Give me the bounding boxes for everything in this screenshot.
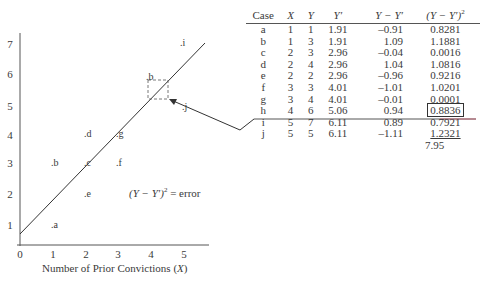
- cell-yp: 6.11: [321, 128, 355, 140]
- header-y-text: Y: [308, 9, 314, 21]
- x-title-prefix: Number of Prior Convictions (: [42, 262, 177, 274]
- empty-cell: [355, 140, 411, 152]
- cell-case: j: [246, 128, 280, 140]
- header-y-prime: Y′: [321, 8, 355, 24]
- y-tick-5: 5: [4, 100, 16, 112]
- y-tick-7: 7: [4, 38, 16, 50]
- cell-x: 1: [280, 24, 300, 36]
- y-tick-6: 6: [4, 68, 16, 80]
- header-sq-sup: 2: [461, 8, 465, 16]
- header-diff-text: Y − Y′: [375, 9, 403, 21]
- cell-yp: 1.91: [321, 24, 355, 36]
- cell-case: f: [246, 82, 280, 94]
- table-row: f 3 3 4.01 –1.01 1.0201: [246, 82, 480, 94]
- header-sq-text: (Y − Y′): [426, 9, 461, 21]
- total-sum: 7.95: [411, 140, 480, 152]
- point-g: .g: [116, 128, 124, 139]
- point-c: .c: [84, 157, 91, 168]
- x-tick-5: 5: [178, 248, 190, 260]
- cell-diff: 0.94: [355, 105, 411, 117]
- cell-y: 1: [301, 24, 321, 36]
- cell-y: 3: [301, 82, 321, 94]
- table-header-row: Case X Y Y′ Y − Y′ (Y − Y′)2: [246, 8, 480, 24]
- cell-x: 3: [280, 82, 300, 94]
- cell-case: a: [246, 24, 280, 36]
- y-tick-4: 4: [4, 129, 16, 141]
- x-axis-title: Number of Prior Convictions (X): [42, 262, 187, 274]
- table-total-row: 7.95: [246, 140, 480, 152]
- header-y: Y: [301, 8, 321, 24]
- point-e: .e: [84, 188, 91, 199]
- header-x-text: X: [287, 9, 294, 21]
- empty-cell: [280, 140, 300, 152]
- scatter-plot: 7 6 5 4 3 2 1 0 1 2 3 4 5 .a .b .c .d .e…: [0, 0, 240, 281]
- table-row: j 5 5 6.11 –1.11 1.2321: [246, 128, 480, 140]
- y-tick-3: 3: [4, 157, 16, 169]
- header-sq: (Y − Y′)2: [411, 8, 480, 24]
- x-tick-1: 1: [47, 248, 59, 260]
- cell-sq: 1.0201: [411, 82, 480, 94]
- error-box-h: [148, 80, 168, 99]
- error-lhs: (Y − Y′): [129, 187, 164, 199]
- error-annotation: (Y − Y′)2 = error: [129, 187, 200, 199]
- x-title-suffix: ): [184, 262, 188, 274]
- point-h: .b: [146, 71, 154, 82]
- header-case: Case: [246, 8, 280, 24]
- cell-diff: –1.01: [355, 82, 411, 94]
- point-j: .j: [182, 101, 187, 112]
- y-tick-2: 2: [4, 188, 16, 200]
- x-tick-3: 3: [112, 248, 124, 260]
- point-a: .a: [51, 219, 58, 230]
- header-diff: Y − Y′: [355, 8, 411, 24]
- cell-diff: –1.11: [355, 128, 411, 140]
- x-tick-4: 4: [145, 248, 157, 260]
- point-b: .b: [51, 157, 59, 168]
- empty-cell: [321, 140, 355, 152]
- error-rhs: = error: [167, 187, 200, 199]
- table-row: a 1 1 1.91 –0.91 0.8281: [246, 24, 480, 36]
- table-row-highlighted: h 4 6 5.06 0.94 0.8836: [246, 105, 480, 117]
- point-i: .i: [180, 37, 185, 48]
- regression-line: [20, 43, 205, 234]
- y-tick-1: 1: [4, 219, 16, 231]
- cell-sq-boxed: 0.8836: [411, 105, 480, 117]
- cell-x: 5: [280, 128, 300, 140]
- underlined-value: 1.2321: [430, 127, 460, 139]
- x-tick-0: 0: [14, 248, 26, 260]
- header-yp-text: Y′: [334, 9, 343, 21]
- header-x: X: [280, 8, 300, 24]
- cell-sq: 0.8281: [411, 24, 480, 36]
- x-tick-2: 2: [80, 248, 92, 260]
- cell-yp: 5.06: [321, 105, 355, 117]
- residuals-table: Case X Y Y′ Y − Y′ (Y − Y′)2 a 1 1 1.91 …: [246, 8, 480, 152]
- cell-y: 6: [301, 105, 321, 117]
- x-title-var: X: [177, 262, 184, 274]
- empty-cell: [246, 140, 280, 152]
- point-f: .f: [116, 157, 122, 168]
- cell-diff: –0.91: [355, 24, 411, 36]
- empty-cell: [301, 140, 321, 152]
- cell-x: 4: [280, 105, 300, 117]
- point-d: .d: [84, 128, 92, 139]
- cell-sq-underlined: 1.2321: [411, 128, 480, 140]
- cell-y: 5: [301, 128, 321, 140]
- cell-yp: 4.01: [321, 82, 355, 94]
- cell-case: h: [246, 105, 280, 117]
